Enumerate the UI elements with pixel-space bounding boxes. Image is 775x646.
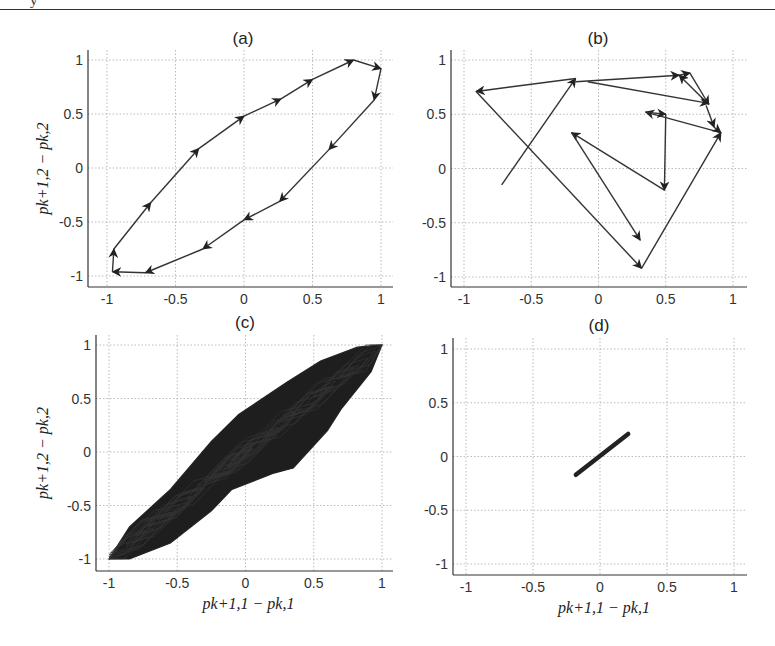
y-tick-label: -0.5 <box>67 498 91 514</box>
panel-a: (a) -1-0.500.51-1-0.500.51pk+1,2 − pk,2 <box>34 29 393 307</box>
x-tick-label: -1 <box>460 579 473 595</box>
x-tick-label: 1 <box>378 575 386 591</box>
x-tick-label: -1 <box>458 291 471 307</box>
y-tick-label: 0 <box>75 160 83 176</box>
x-tick-label: 1 <box>377 291 385 307</box>
x-tick-label: 0.5 <box>304 575 324 591</box>
panel-b: (b) -1-0.500.51-1-0.500.51 <box>422 29 747 307</box>
plot-series <box>112 60 381 273</box>
y-tick-label: -0.5 <box>59 214 83 230</box>
y-tick-label: -0.5 <box>424 502 448 518</box>
y-tick-label: 0.5 <box>429 395 449 411</box>
x-tick-label: 0.5 <box>657 579 677 595</box>
x-tick-label: 0 <box>596 579 604 595</box>
y-tick-label: 1 <box>83 337 91 353</box>
x-tick-label: 1 <box>730 579 738 595</box>
x-tick-label: 0 <box>595 291 603 307</box>
figure: (a) -1-0.500.51-1-0.500.51pk+1,2 − pk,2 … <box>0 0 775 646</box>
panel-d: (d) -1-0.500.51-1-0.500.51pk+1,1 − pk,1 <box>424 316 747 617</box>
y-tick-label: 1 <box>438 52 446 68</box>
panel-c-title: (c) <box>235 313 255 332</box>
y-tick-label: -1 <box>79 551 92 567</box>
panel-a-title: (a) <box>233 29 254 48</box>
y-tick-label: 0 <box>440 449 448 465</box>
x-axis-label: pk+1,1 − pk,1 <box>202 595 295 613</box>
x-tick-label: -0.5 <box>163 291 187 307</box>
y-axis-label: pk+1,2 − pk,2 <box>34 123 52 216</box>
y-tick-label: 1 <box>440 341 448 357</box>
x-tick-label: 0.5 <box>656 291 676 307</box>
y-tick-label: 0 <box>83 444 91 460</box>
y-tick-label: 1 <box>75 52 83 68</box>
y-tick-label: -0.5 <box>422 215 446 231</box>
y-tick-label: -1 <box>434 269 447 285</box>
x-tick-label: -0.5 <box>521 579 545 595</box>
x-axis-label: pk+1,1 − pk,1 <box>557 599 650 617</box>
panel-c: (c) -1-0.500.51-1-0.500.51pk+1,2 − pk,2p… <box>34 313 393 613</box>
plot-series <box>576 434 628 475</box>
x-tick-label: 0.5 <box>303 291 323 307</box>
x-tick-label: 0 <box>242 575 250 591</box>
x-tick-label: 0 <box>240 291 248 307</box>
x-tick-label: -0.5 <box>165 575 189 591</box>
panel-d-title: (d) <box>589 316 610 335</box>
y-axis-label: pk+1,2 − pk,2 <box>34 407 52 500</box>
x-tick-label: -0.5 <box>519 291 543 307</box>
x-tick-label: -1 <box>103 575 116 591</box>
x-tick-label: 1 <box>729 291 737 307</box>
y-tick-label: 0.5 <box>64 106 84 122</box>
y-tick-label: 0 <box>438 161 446 177</box>
grid-lines <box>88 50 393 287</box>
x-tick-label: -1 <box>101 291 114 307</box>
panel-b-title: (b) <box>588 29 609 48</box>
y-tick-label: 0.5 <box>427 106 447 122</box>
y-tick-label: 0.5 <box>72 391 92 407</box>
y-tick-label: -1 <box>436 556 449 572</box>
grid-lines <box>451 50 747 287</box>
y-tick-label: -1 <box>71 268 84 284</box>
